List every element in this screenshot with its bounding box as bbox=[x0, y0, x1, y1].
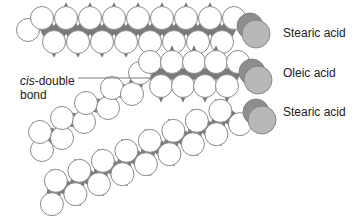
hydrogen-atom bbox=[111, 163, 134, 186]
hydrogen-atom bbox=[68, 159, 91, 182]
hydrogen-atom bbox=[75, 92, 98, 115]
hydrogen-atom bbox=[91, 31, 114, 54]
hydrogen-atom bbox=[175, 7, 198, 30]
hydrogen-atom bbox=[67, 31, 90, 54]
carboxyl-head-atom bbox=[242, 20, 270, 48]
stearic-acid-chain-top bbox=[17, 7, 271, 54]
hydrogen-atom bbox=[51, 107, 74, 130]
hydrogen-atom bbox=[199, 7, 222, 30]
double-text: -double bbox=[35, 74, 75, 88]
hydrogen-atom bbox=[158, 143, 181, 166]
hydrogen-atom bbox=[185, 109, 208, 132]
hydrogen-atom bbox=[101, 77, 124, 100]
hydrogen-atom bbox=[97, 97, 120, 120]
hydrogen-atom bbox=[194, 75, 217, 98]
hydrogen-atom bbox=[181, 133, 204, 156]
hydrogen-atom bbox=[161, 51, 184, 74]
hydrogen-atom bbox=[115, 139, 138, 162]
hydrogen-atom bbox=[87, 173, 110, 196]
hydrogen-atom bbox=[183, 51, 206, 74]
hydrogen-atom bbox=[103, 7, 126, 30]
cis-italic-text: cis bbox=[20, 74, 35, 88]
hydrogen-atom bbox=[134, 153, 157, 176]
hydrogen-atom bbox=[162, 119, 185, 142]
hydrogen-atom bbox=[121, 83, 144, 106]
hydrogen-atom bbox=[205, 123, 228, 146]
hydrogen-atom bbox=[91, 149, 114, 172]
hydrogen-atom bbox=[172, 75, 195, 98]
hydrogen-atom bbox=[79, 7, 102, 30]
hydrogen-atom bbox=[40, 193, 63, 216]
hydrogen-atom bbox=[31, 7, 54, 30]
hydrogen-atom bbox=[115, 31, 138, 54]
hydrogen-atom bbox=[187, 31, 210, 54]
hydrogen-atom bbox=[205, 51, 228, 74]
hydrogen-atom bbox=[127, 7, 150, 30]
hydrogen-atom bbox=[55, 7, 78, 30]
hydrogen-atom bbox=[216, 75, 239, 98]
label-oleic-acid: Oleic acid bbox=[283, 66, 336, 80]
label-cis-double-bond: cis-doublebond bbox=[20, 74, 75, 102]
hydrogen-atom bbox=[209, 99, 232, 122]
hydrogen-atom bbox=[64, 183, 87, 206]
hydrogen-atom bbox=[139, 51, 162, 74]
hydrogen-atom bbox=[44, 169, 67, 192]
carboxyl-head-atom bbox=[244, 66, 272, 94]
label-stearic-acid-top: Stearic acid bbox=[283, 26, 346, 40]
hydrogen-atom bbox=[43, 31, 66, 54]
hydrogen-atom bbox=[29, 121, 52, 144]
hydrogen-atom bbox=[150, 75, 173, 98]
hydrogen-atom bbox=[138, 129, 161, 152]
bond-text: bond bbox=[20, 88, 75, 102]
carboxyl-head-atom bbox=[248, 106, 276, 134]
label-stearic-acid-bottom: Stearic acid bbox=[283, 105, 346, 119]
hydrogen-atom bbox=[151, 7, 174, 30]
